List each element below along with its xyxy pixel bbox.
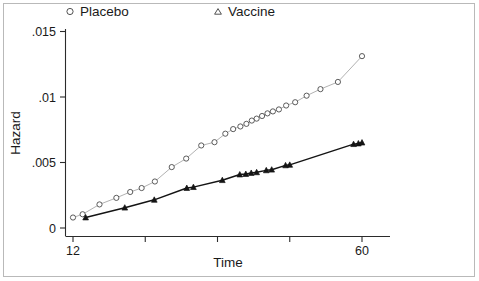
legend-item-placebo: Placebo — [67, 4, 129, 19]
series-placebo — [70, 54, 364, 221]
y-axis-title: Hazard — [8, 111, 23, 155]
data-point-marker — [304, 93, 309, 98]
data-point-marker — [128, 189, 133, 194]
data-point-marker — [276, 107, 281, 112]
y-tick-label: 0 — [49, 222, 56, 236]
data-point-marker — [318, 87, 323, 92]
chart-axes: 0.005.01.015 1260 — [32, 25, 390, 258]
legend-label-vaccine: Vaccine — [228, 4, 275, 19]
y-axis-ticks: 0.005.01.015 — [32, 25, 66, 236]
data-point-marker — [152, 179, 157, 184]
data-point-marker — [335, 79, 340, 84]
data-point-marker — [244, 121, 249, 126]
data-point-marker — [139, 185, 144, 190]
data-point-marker — [223, 131, 228, 136]
hazard-plot-canvas: Placebo Vaccine 0.005.01.015 1260 Time H… — [0, 0, 479, 281]
data-point-marker — [254, 116, 259, 121]
legend-label-placebo: Placebo — [80, 4, 129, 19]
chart-series-layer — [70, 54, 364, 221]
legend-item-vaccine: Vaccine — [215, 4, 275, 19]
legend-marker-open-circle-icon — [67, 8, 73, 14]
x-axis-title: Time — [213, 255, 243, 270]
data-point-marker — [293, 100, 298, 105]
data-point-marker — [265, 111, 270, 116]
data-point-marker — [359, 140, 365, 145]
x-tick-label: 60 — [355, 244, 369, 258]
hazard-chart-figure: Placebo Vaccine 0.005.01.015 1260 Time H… — [0, 0, 479, 281]
data-point-marker — [70, 215, 75, 220]
data-point-marker — [199, 143, 204, 148]
series-line — [73, 56, 362, 217]
y-tick-label: .005 — [32, 156, 56, 170]
data-point-marker — [169, 164, 174, 169]
series-vaccine — [83, 140, 365, 220]
data-point-marker — [114, 195, 119, 200]
data-point-marker — [359, 54, 364, 59]
data-point-marker — [184, 156, 189, 161]
data-point-marker — [270, 109, 275, 114]
data-point-marker — [97, 202, 102, 207]
x-tick-label: 12 — [66, 244, 80, 258]
legend-marker-open-triangle-icon — [215, 9, 222, 15]
data-point-marker — [238, 124, 243, 129]
y-tick-label: .01 — [39, 91, 56, 105]
data-point-marker — [212, 140, 217, 145]
data-point-marker — [231, 126, 236, 131]
chart-legend: Placebo Vaccine — [67, 4, 275, 19]
data-point-marker — [259, 113, 264, 118]
data-point-marker — [284, 103, 289, 108]
y-tick-label: .015 — [32, 25, 56, 39]
